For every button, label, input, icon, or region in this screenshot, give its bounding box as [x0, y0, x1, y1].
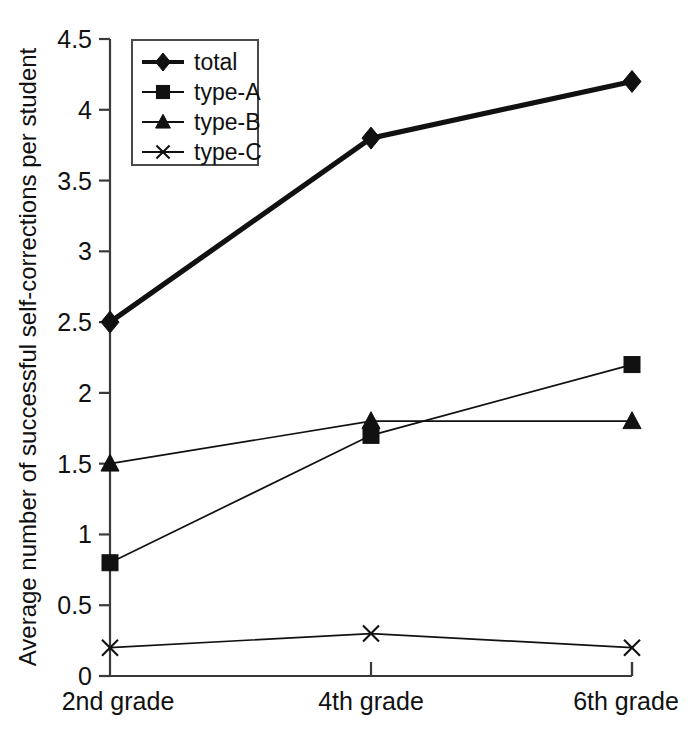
- x-tick-label: 6th grade: [573, 687, 679, 715]
- marker-triangle: [623, 412, 641, 429]
- marker-diamond: [101, 311, 119, 333]
- series-type-A: [102, 357, 640, 571]
- marker-square: [102, 555, 118, 571]
- y-axis-ticks: 00.511.522.533.544.5: [57, 25, 110, 690]
- y-tick-label: 2.5: [57, 308, 92, 336]
- y-tick-label: 1: [78, 520, 92, 548]
- y-axis-title: Average number of successful self-correc…: [14, 47, 41, 666]
- marker-square: [156, 85, 169, 98]
- y-tick-label: 2: [78, 379, 92, 407]
- marker-square: [624, 357, 640, 373]
- series-type-C: [102, 626, 640, 656]
- y-tick-label: 0.5: [57, 591, 92, 619]
- legend-label-type-A: type-A: [194, 79, 261, 105]
- series-line-type-C: [110, 634, 632, 648]
- chart-legend: totaltype-Atype-Btype-C: [132, 40, 262, 165]
- y-tick-label: 4.5: [57, 25, 92, 53]
- y-tick-label: 3: [78, 237, 92, 265]
- x-axis-ticks: 2nd grade4th grade6th grade: [62, 662, 679, 715]
- marker-triangle: [362, 412, 380, 429]
- chart-container: 00.511.522.533.544.5 2nd grade4th grade6…: [0, 0, 696, 751]
- marker-diamond: [362, 127, 380, 149]
- legend-label-type-B: type-B: [194, 109, 260, 135]
- y-tick-label: 1.5: [57, 450, 92, 478]
- series-line-type-A: [110, 365, 632, 563]
- y-tick-label: 4: [78, 96, 92, 124]
- y-tick-label: 0: [78, 662, 92, 690]
- marker-diamond: [623, 70, 641, 92]
- x-tick-label: 4th grade: [318, 687, 424, 715]
- legend-label-type-C: type-C: [194, 139, 262, 165]
- y-tick-label: 3.5: [57, 167, 92, 195]
- marker-square: [363, 427, 379, 443]
- x-tick-label: 2nd grade: [62, 687, 175, 715]
- legend-label-total: total: [194, 49, 237, 75]
- line-chart: 00.511.522.533.544.5 2nd grade4th grade6…: [0, 0, 696, 751]
